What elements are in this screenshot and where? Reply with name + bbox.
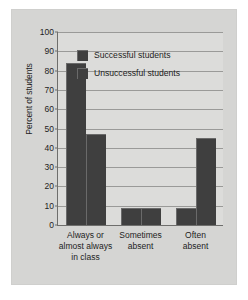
legend-label: Unsuccessful students (94, 68, 180, 78)
gridline (58, 32, 223, 33)
x-axis-category-label: Always oralmost alwaysin class (59, 230, 112, 263)
y-axis-tick-label: 100 (40, 27, 54, 37)
y-axis-tick-mark (55, 147, 58, 148)
x-axis-category-label: Sometimesabsent (119, 230, 162, 252)
legend-label: Successful students (94, 50, 170, 60)
y-axis-tick-label: 80 (45, 66, 54, 76)
legend-item-unsuccessful: Unsuccessful students (77, 64, 180, 82)
y-axis-tick-label: 60 (45, 104, 54, 114)
chart-figure: Percent of students 01020304050607080901… (0, 0, 248, 300)
y-axis-tick-label: 70 (45, 85, 54, 95)
y-axis-tick-mark (55, 225, 58, 226)
y-axis-tick-mark (55, 89, 58, 90)
y-axis-tick-label: 0 (49, 220, 54, 230)
x-axis-category-label: Oftenabsent (183, 230, 209, 252)
y-axis-tick-label: 30 (45, 162, 54, 172)
y-axis-tick-mark (55, 51, 58, 52)
y-axis-tick-mark (55, 186, 58, 187)
bar (196, 138, 216, 225)
y-axis-tick-label: 20 (45, 181, 54, 191)
legend-item-successful: Successful students (77, 46, 180, 64)
y-axis-title: Percent of students (24, 34, 34, 164)
y-axis-tick-mark (55, 70, 58, 71)
chart-legend: Successful students Unsuccessful student… (77, 46, 180, 82)
bar (141, 208, 161, 225)
y-axis-tick-mark (55, 128, 58, 129)
y-axis-tick-label: 50 (45, 124, 54, 134)
bar (176, 208, 196, 225)
y-axis-tick-mark (55, 32, 58, 33)
bar (121, 208, 141, 225)
bar (66, 63, 86, 225)
y-axis-tick-label: 10 (45, 201, 54, 211)
y-axis-tick-mark (55, 205, 58, 206)
y-axis-tick-label: 90 (45, 46, 54, 56)
chart-panel: Percent of students 01020304050607080901… (12, 10, 236, 284)
y-axis-tick-label: 40 (45, 143, 54, 153)
legend-swatch-icon (77, 50, 88, 61)
bar (86, 134, 106, 225)
y-axis-tick-mark (55, 167, 58, 168)
y-axis-tick-mark (55, 109, 58, 110)
legend-swatch-icon (77, 68, 88, 79)
